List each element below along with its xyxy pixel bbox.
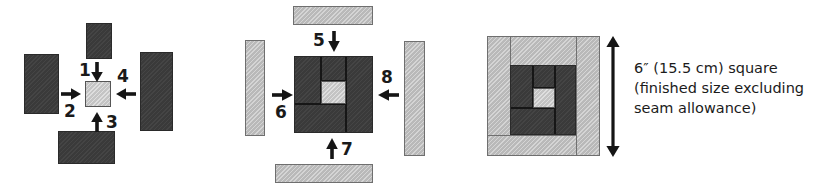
dark-strip-bottom-3 — [58, 131, 115, 164]
light-strip-left-6 — [245, 40, 265, 136]
finished-block — [487, 36, 600, 156]
light-strip-right-8 — [404, 41, 425, 156]
arrow-up-3 — [90, 112, 104, 132]
center-square-panel-3 — [533, 88, 555, 108]
seam-outer-vertical-left — [510, 37, 511, 65]
light-strip-bottom-7 — [275, 164, 373, 183]
arrow-up-7 — [325, 138, 339, 159]
inner-dark-block — [510, 65, 576, 135]
arrow-right-6 — [272, 88, 293, 102]
arrow-left-8 — [378, 88, 399, 102]
center-square-panel-1 — [85, 81, 111, 107]
step-number-6: 6 — [275, 104, 287, 121]
arrow-down-5 — [327, 31, 341, 52]
arrow-right-2 — [61, 87, 81, 101]
dark-strip-top-1 — [86, 23, 112, 59]
seam-outer-vertical-right — [576, 37, 577, 155]
step-number-4: 4 — [117, 68, 129, 85]
finished-size-caption: 6″ (15.5 cm) square (finished size exclu… — [634, 58, 828, 118]
arrow-left-4 — [116, 87, 136, 101]
step-number-5: 5 — [313, 32, 325, 49]
measure-double-arrow-icon — [605, 36, 621, 157]
light-strip-top-5 — [293, 6, 373, 25]
seam-outer-horizontal-bottom — [488, 135, 576, 136]
dark-strip-right-4 — [140, 52, 173, 131]
diagram-canvas: 1 2 3 4 — [0, 0, 828, 188]
assembled-block-round-1 — [294, 56, 373, 133]
step-number-1: 1 — [79, 62, 91, 79]
step-number-2: 2 — [64, 103, 76, 120]
dark-strip-left-2 — [24, 54, 59, 114]
step-number-7: 7 — [341, 141, 353, 158]
center-square-panel-2 — [321, 81, 346, 104]
step-number-3: 3 — [106, 114, 118, 131]
step-number-8: 8 — [381, 69, 393, 86]
arrow-down-1 — [90, 62, 104, 82]
